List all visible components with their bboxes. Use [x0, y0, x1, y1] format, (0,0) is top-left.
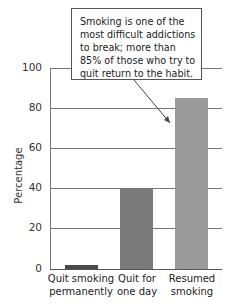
bar-chart: Percentage 100 80 60 40 20 0 Quit smokin…	[0, 0, 233, 307]
annotation-callout: Smoking is one of the most difficult add…	[71, 8, 202, 80]
